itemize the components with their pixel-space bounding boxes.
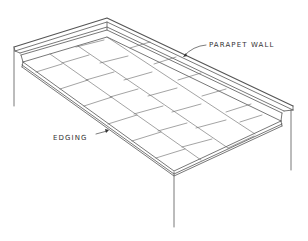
roof-edging xyxy=(22,62,282,176)
parapet-wall-label: PARAPET WALL xyxy=(209,41,274,49)
parapet-wall xyxy=(14,18,293,121)
roof-isometric-drawing xyxy=(0,0,308,241)
edging-arrowhead xyxy=(105,129,109,133)
edging-label: EDGING xyxy=(53,134,88,142)
